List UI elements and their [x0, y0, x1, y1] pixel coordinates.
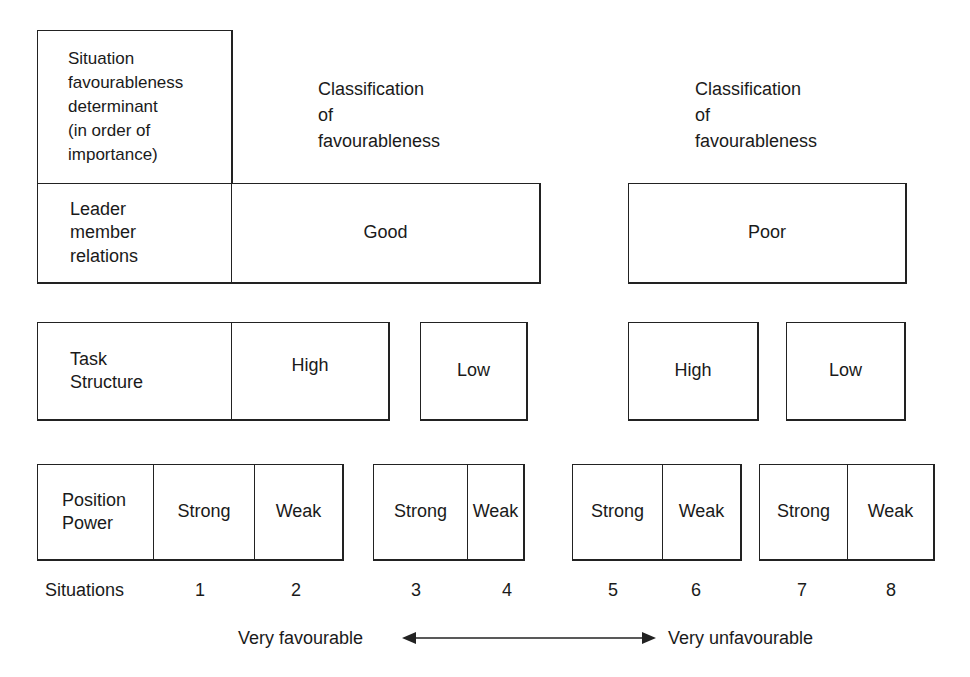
task-structure-high-cell-1: High	[231, 323, 388, 419]
situation-number-2: 2	[281, 580, 311, 601]
position-power-cell-8: Weak	[847, 465, 933, 559]
situations-label: Situations	[45, 580, 124, 601]
situation-number-6: 6	[681, 580, 711, 601]
position-power-cell-2: Weak	[254, 465, 342, 559]
leader-member-relations-poor-box: Poor	[628, 183, 907, 284]
position-power-box-2: Strong Weak	[373, 464, 525, 561]
position-power-cell-6: Weak	[662, 465, 740, 559]
leader-member-relations-label: Leader member relations	[38, 184, 231, 282]
very-unfavourable-label: Very unfavourable	[668, 628, 813, 649]
situation-number-5: 5	[598, 580, 628, 601]
task-structure-high-box-2: High	[628, 322, 759, 421]
position-power-cell-4: Weak	[467, 465, 523, 559]
task-structure-low-box-1: Low	[420, 322, 528, 421]
task-structure-label: Task Structure	[38, 323, 231, 419]
position-power-cell-1: Strong	[153, 465, 254, 559]
task-structure-low-cell-1: Low	[421, 323, 526, 419]
position-power-cell-7: Strong	[760, 465, 847, 559]
position-power-box-3: Strong Weak	[572, 464, 742, 561]
determinant-header-text: Situation favourableness determinant (in…	[38, 31, 231, 183]
position-power-label: Position Power	[38, 465, 153, 559]
situation-number-7: 7	[787, 580, 817, 601]
leader-member-relations-good-box: Leader member relations Good	[37, 183, 541, 284]
double-arrow-icon	[400, 628, 658, 648]
task-structure-low-cell-2: Low	[787, 323, 904, 419]
determinant-header-box: Situation favourableness determinant (in…	[37, 30, 233, 185]
task-structure-high-box-1: Task Structure High	[37, 322, 390, 421]
very-favourable-label: Very favourable	[238, 628, 363, 649]
classification-header-right: Classification of favourableness	[695, 76, 817, 154]
situation-number-3: 3	[401, 580, 431, 601]
position-power-cell-5: Strong	[573, 465, 662, 559]
lmr-good-cell: Good	[231, 184, 539, 282]
position-power-cell-3: Strong	[374, 465, 467, 559]
situation-number-1: 1	[185, 580, 215, 601]
position-power-box-4: Strong Weak	[759, 464, 935, 561]
classification-header-left: Classification of favourableness	[318, 76, 440, 154]
lmr-poor-cell: Poor	[629, 184, 905, 282]
task-structure-low-box-2: Low	[786, 322, 906, 421]
position-power-box-1: Position Power Strong Weak	[37, 464, 344, 561]
situation-number-4: 4	[492, 580, 522, 601]
situation-number-8: 8	[876, 580, 906, 601]
task-structure-high-cell-2: High	[629, 323, 757, 419]
